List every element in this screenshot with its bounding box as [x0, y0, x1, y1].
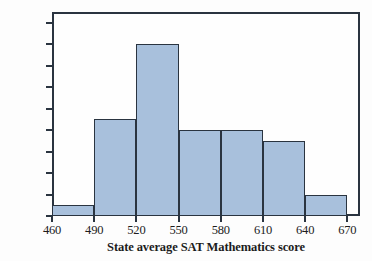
y-axis-tick — [46, 43, 52, 45]
y-axis-tick — [46, 22, 52, 24]
y-axis-tick — [46, 194, 52, 196]
x-axis-tick-label: 640 — [285, 224, 325, 237]
x-axis-tick — [262, 216, 264, 222]
x-axis-tick-label: 490 — [74, 224, 114, 237]
x-axis-tick — [51, 216, 53, 222]
x-axis-tick — [135, 216, 137, 222]
x-axis-tick-label: 580 — [201, 224, 241, 237]
x-axis-tick — [93, 216, 95, 222]
x-axis-tick — [304, 216, 306, 222]
y-axis-tick — [46, 151, 52, 153]
x-axis-title: State average SAT Mathematics score — [52, 241, 360, 254]
x-axis-tick-label: 460 — [32, 224, 72, 237]
x-axis-tick-label: 550 — [159, 224, 199, 237]
y-axis-tick — [46, 129, 52, 131]
x-axis-tick-label: 520 — [116, 224, 156, 237]
y-axis-tick — [46, 172, 52, 174]
x-axis-tick-label: 610 — [243, 224, 283, 237]
x-axis-tick-label: 670 — [327, 224, 367, 237]
histogram-figure: 024681012141618 460490520550580610640670… — [0, 0, 372, 261]
y-axis-tick — [46, 65, 52, 67]
y-axis-tick — [46, 108, 52, 110]
x-axis-tick — [178, 216, 180, 222]
y-axis: 024681012141618 — [0, 0, 372, 261]
x-axis-tick — [346, 216, 348, 222]
x-axis-tick — [220, 216, 222, 222]
y-axis-tick — [46, 86, 52, 88]
